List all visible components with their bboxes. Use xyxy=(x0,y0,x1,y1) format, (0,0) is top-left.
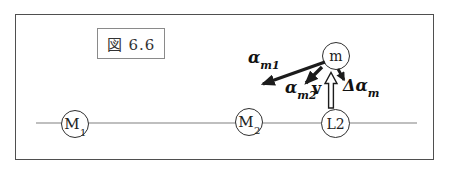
velocity-arrow xyxy=(325,73,337,109)
vector-arrow-layer xyxy=(0,0,449,171)
diagram-canvas: 図 6.6 M1 M2 L2 m αm1 αm2 xyxy=(0,0,449,171)
vector-label-alpha-m1: αm1 xyxy=(248,50,280,66)
vector-label-delta-alpha-m: Δαm xyxy=(343,78,379,94)
vector-label-velocity: v xyxy=(312,81,321,97)
